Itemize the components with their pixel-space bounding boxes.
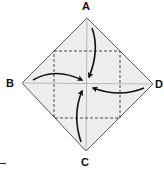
origami-diagram: A B D C	[0, 0, 164, 170]
corner-label-c: C	[81, 157, 89, 168]
corner-label-b: B	[6, 78, 14, 89]
diagram-canvas	[0, 0, 164, 170]
page-edge-mark	[0, 163, 6, 164]
paper-square	[22, 18, 153, 151]
corner-label-d: D	[155, 79, 163, 90]
corner-label-a: A	[82, 1, 90, 12]
